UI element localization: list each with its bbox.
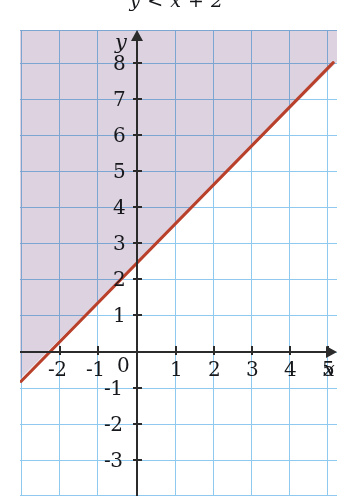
x-tick: [289, 346, 291, 355]
x-tick: [327, 346, 329, 355]
x-tick-label: -2: [48, 359, 66, 379]
graph-title-operator: <: [147, 0, 163, 11]
y-tick-label: 3: [113, 233, 126, 253]
x-tick-label: 2: [208, 359, 221, 379]
x-axis-label: x: [323, 359, 335, 380]
y-axis-arrow-icon: [131, 30, 143, 41]
y-tick-label: -1: [104, 378, 122, 398]
y-tick-label: -2: [104, 414, 122, 434]
y-tick: [133, 62, 142, 64]
y-tick-label: 2: [113, 269, 126, 289]
y-tick: [133, 134, 142, 136]
graph-title: y < x + 2: [0, 0, 353, 11]
gridline-horizontal: [20, 388, 337, 389]
x-tick: [251, 346, 253, 355]
x-tick: [59, 346, 61, 355]
coordinate-plane: 8 7 6 5 4 3 2 1 0 -1 -2 -3 -2 -1 1 2 3 4…: [20, 30, 337, 496]
y-tick: [133, 314, 142, 316]
gridline-horizontal: [20, 424, 337, 425]
y-axis-label: y: [115, 32, 127, 53]
y-tick-label: 4: [113, 197, 126, 217]
y-tick: [133, 242, 142, 244]
y-tick-label: -3: [104, 450, 122, 470]
graph-title-lhs: y: [129, 0, 140, 11]
x-tick-label: 4: [284, 359, 297, 379]
x-tick: [213, 346, 215, 355]
y-tick: [133, 459, 142, 461]
y-tick-label-zero: 0: [117, 355, 130, 375]
x-tick: [97, 346, 99, 355]
y-tick-label: 7: [113, 89, 126, 109]
y-tick: [133, 98, 142, 100]
y-tick-label: 8: [113, 53, 126, 73]
x-tick-label: 3: [246, 359, 259, 379]
y-tick: [133, 387, 142, 389]
x-tick-label: -1: [86, 359, 104, 379]
x-tick: [175, 346, 177, 355]
gridline-horizontal: [20, 460, 337, 461]
y-tick-label: 6: [113, 125, 126, 145]
y-tick-label: 1: [113, 305, 126, 325]
y-tick: [133, 423, 142, 425]
gridline-horizontal: [20, 495, 337, 496]
y-axis: [136, 38, 138, 496]
x-tick-label: 1: [170, 359, 183, 379]
y-tick: [133, 206, 142, 208]
y-tick: [133, 278, 142, 280]
y-tick: [133, 170, 142, 172]
graph-title-rhs: x + 2: [170, 0, 223, 11]
y-tick-label: 5: [113, 161, 126, 181]
